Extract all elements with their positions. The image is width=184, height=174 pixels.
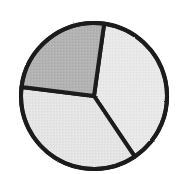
pie-chart-figure [0, 0, 184, 174]
pie-body-group [21, 23, 167, 169]
pie-slice-3[interactable] [22, 23, 105, 96]
pie-roughened-group [21, 23, 167, 169]
pie-chart-svg [0, 0, 184, 174]
